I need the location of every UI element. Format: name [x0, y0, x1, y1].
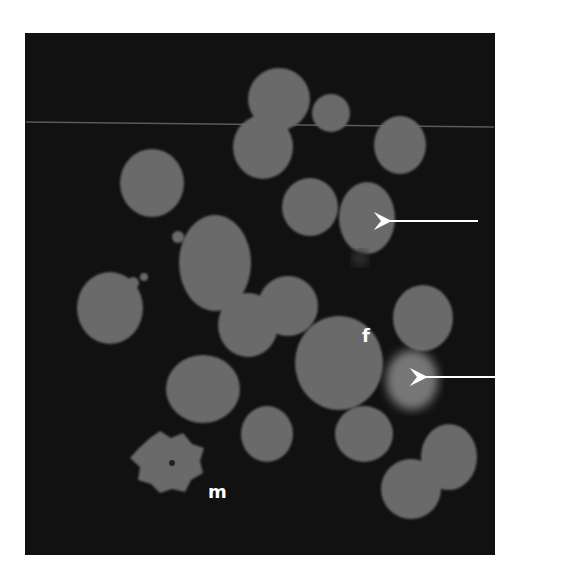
label-m: m	[208, 481, 227, 502]
fluorescent-cell	[386, 350, 438, 410]
label-f: f	[362, 325, 370, 346]
micrograph-figure: f m	[0, 0, 565, 585]
